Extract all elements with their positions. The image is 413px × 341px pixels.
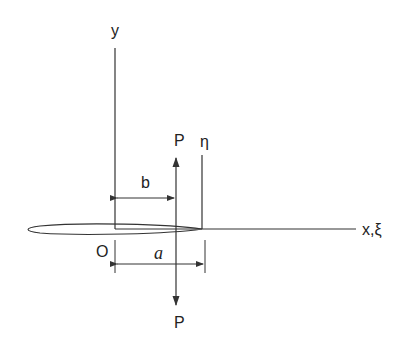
- origin-label: O: [96, 243, 108, 260]
- eta-axis-label: η: [200, 133, 209, 150]
- x-axis-label: x,ξ: [362, 221, 382, 239]
- load-label-top: P: [174, 132, 185, 149]
- dim-a-label: a: [154, 243, 163, 263]
- y-axis-label: y: [111, 22, 119, 39]
- crack-diagram: y x,ξ η O P P b a: [0, 0, 413, 341]
- dim-b-label: b: [141, 174, 150, 191]
- load-label-bottom: P: [174, 314, 185, 331]
